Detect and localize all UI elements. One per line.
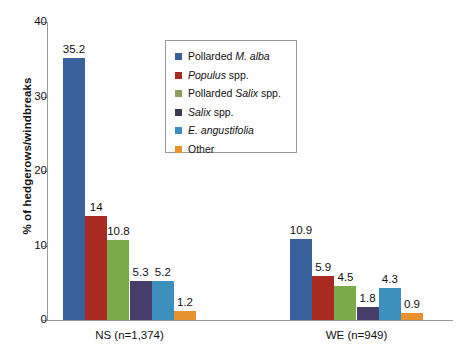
legend-item-label: Populus spp. (188, 70, 249, 81)
y-tick: 0 (0, 320, 47, 321)
bar (290, 239, 312, 320)
bar-chart: % of hedgerows/windbreaks 403020100 35.2… (0, 0, 465, 361)
bar-value-label: 10.9 (284, 225, 318, 237)
legend-item: Pollarded Salix spp. (175, 85, 296, 102)
bar-value-label: 4.5 (328, 272, 362, 284)
bar-value-label: 1.2 (168, 297, 202, 309)
legend: Pollarded M. albaPopulus spp.Pollarded S… (165, 40, 297, 153)
bar-value-label: 10.8 (101, 226, 135, 238)
y-axis-title: % of hedgerows/windbreaks (21, 41, 33, 271)
bar-value-label: 5.2 (146, 267, 180, 279)
bar-value-label: 0.9 (395, 299, 429, 311)
bar-value-label: 4.3 (373, 274, 407, 286)
y-tick: 20 (0, 171, 47, 172)
y-tick-label: 30 (7, 91, 47, 103)
legend-item: E. angustifolia (175, 122, 296, 139)
y-axis-line (47, 22, 48, 320)
legend-item-label: Salix spp. (188, 107, 234, 118)
legend-item: Pollarded M. alba (175, 48, 296, 65)
legend-swatch-icon (175, 72, 182, 79)
y-tick: 40 (0, 22, 47, 23)
x-axis-group-label: NS (n=1,374) (70, 329, 190, 341)
x-axis-group-label: WE (n=949) (297, 329, 417, 341)
bar (174, 311, 196, 320)
legend-item: Populus spp. (175, 67, 296, 84)
legend-swatch-icon (175, 127, 182, 134)
legend-item: Salix spp. (175, 104, 296, 121)
y-tick-label: 10 (7, 240, 47, 252)
bar (357, 307, 379, 320)
x-axis-line (47, 320, 453, 321)
y-tick-label: 20 (7, 165, 47, 177)
legend-item: Other (175, 141, 296, 158)
bar (401, 313, 423, 320)
legend-swatch-icon (175, 90, 182, 97)
bar (130, 281, 152, 320)
legend-item-label: Pollarded M. alba (188, 51, 270, 62)
bar (107, 240, 129, 320)
legend-item-label: Other (188, 144, 214, 155)
bar-value-label: 35.2 (57, 44, 91, 56)
legend-item-label: E. angustifolia (188, 125, 254, 136)
legend-swatch-icon (175, 109, 182, 116)
legend-item-label: Pollarded Salix spp. (188, 88, 281, 99)
legend-swatch-icon (175, 53, 182, 60)
y-tick: 10 (0, 246, 47, 247)
bar-value-label: 14 (79, 202, 113, 214)
y-tick: 30 (0, 97, 47, 98)
y-tick-label: 0 (7, 314, 47, 326)
y-tick-label: 40 (7, 16, 47, 28)
bar (63, 58, 85, 320)
legend-swatch-icon (175, 146, 182, 153)
